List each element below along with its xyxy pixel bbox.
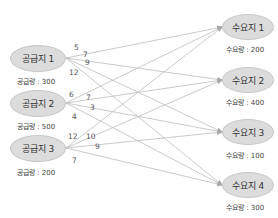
- edge-s3-d4: [66, 148, 222, 185]
- edge-label-s1-d1: 5: [74, 43, 79, 52]
- supply-node-2: 공급지 2: [10, 90, 66, 117]
- edge-label-s3-d3: 9: [95, 142, 100, 151]
- demand-node-2-label: 수요지 2: [232, 74, 265, 87]
- demand-node-2: 수요지 2: [222, 67, 274, 93]
- edge-label-s1-d3: 9: [85, 58, 90, 67]
- edge-label-s2-d3: 3: [90, 103, 95, 112]
- demand-2-caption: 수요량 : 400: [226, 97, 264, 107]
- supply-3-caption: 공급량 : 200: [17, 167, 55, 177]
- demand-node-1-label: 수요지 1: [232, 21, 265, 34]
- demand-node-4-label: 수요지 4: [232, 179, 265, 192]
- demand-1-caption: 수요량 : 200: [226, 44, 264, 54]
- edge-s3-d1: [66, 27, 222, 148]
- supply-node-3: 공급지 3: [10, 135, 66, 162]
- supply-node-1-label: 공급지 1: [22, 52, 55, 65]
- supply-node-1: 공급지 1: [10, 45, 66, 72]
- edge-label-s3-d2: 10: [86, 132, 96, 141]
- edge-label-s3-d1: 12: [68, 132, 78, 141]
- demand-4-caption: 수요량 : 300: [226, 202, 264, 212]
- supply-2-caption: 공급량 : 500: [17, 121, 55, 131]
- demand-node-4: 수요지 4: [222, 172, 274, 198]
- supply-1-caption: 공급량 : 300: [17, 76, 55, 86]
- edge-s1-d1: [66, 27, 222, 58]
- supply-node-2-label: 공급지 2: [22, 97, 55, 110]
- edge-label-s1-d4: 12: [69, 68, 79, 77]
- edge-label-s2-d4: 4: [72, 112, 77, 121]
- edge-s2-d4: [66, 103, 222, 185]
- edge-label-s3-d4: 7: [72, 156, 77, 165]
- edge-label-s2-d1: 6: [69, 90, 74, 99]
- demand-node-3-label: 수요지 3: [232, 126, 265, 139]
- demand-node-1: 수요지 1: [222, 14, 274, 40]
- edge-label-s2-d2: 7: [86, 93, 91, 102]
- demand-3-caption: 수요량 : 100: [226, 150, 264, 160]
- supply-node-3-label: 공급지 3: [22, 142, 55, 155]
- demand-node-3: 수요지 3: [222, 119, 274, 145]
